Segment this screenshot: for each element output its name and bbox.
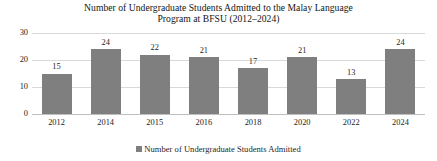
y-tick-label-0: 0	[2, 110, 28, 118]
bar-2012[interactable]	[42, 74, 72, 115]
bar-slot-2012: 15	[32, 33, 81, 114]
y-tick-label-20: 20	[2, 56, 28, 64]
bar-value-2018: 17	[229, 58, 278, 66]
x-axis: 2012 2014 2015 2016 2018 2020 2022 2024	[32, 118, 425, 130]
bar-slot-2020: 21	[278, 33, 327, 114]
bar-2014[interactable]	[91, 49, 121, 114]
bar-slot-2018: 17	[229, 33, 278, 114]
bar-value-2020: 21	[278, 47, 327, 55]
chart-legend: Number of Undergraduate Students Admitte…	[0, 142, 437, 156]
bar-slot-2024: 24	[376, 33, 425, 114]
y-tick-label-10: 10	[2, 83, 28, 91]
x-tick-label-2020: 2020	[278, 118, 327, 127]
chart-title: Number of Undergraduate Students Admitte…	[0, 2, 437, 24]
legend-entry-label[interactable]: Number of Undergraduate Students Admitte…	[144, 145, 300, 154]
bar-value-2022: 13	[327, 69, 376, 77]
bar-slot-2014: 24	[81, 33, 130, 114]
x-tick-label-2022: 2022	[327, 118, 376, 127]
bar-slot-2022: 13	[327, 33, 376, 114]
bar-slot-2015: 22	[130, 33, 179, 114]
chart-title-line-1: Number of Undergraduate Students Admitte…	[0, 2, 437, 13]
bar-value-2015: 22	[130, 44, 179, 52]
x-axis-line	[32, 114, 425, 115]
y-tick-label-30: 30	[2, 29, 28, 37]
bar-2022[interactable]	[336, 79, 366, 114]
x-tick-label-2024: 2024	[376, 118, 425, 127]
bar-2024[interactable]	[385, 49, 415, 114]
bar-value-2024: 24	[376, 39, 425, 47]
x-tick-label-2015: 2015	[130, 118, 179, 127]
bar-value-2016: 21	[179, 47, 228, 55]
x-tick-label-2014: 2014	[81, 118, 130, 127]
bar-value-2012: 15	[32, 63, 81, 71]
x-tick-label-2012: 2012	[32, 118, 81, 127]
chart-title-line-2: Program at BFSU (2012–2024)	[0, 13, 437, 24]
legend-swatch-icon	[136, 146, 142, 152]
bar-2020[interactable]	[287, 57, 317, 114]
bar-2016[interactable]	[189, 57, 219, 114]
bar-2018[interactable]	[238, 68, 268, 114]
x-tick-label-2018: 2018	[229, 118, 278, 127]
bar-chart: Number of Undergraduate Students Admitte…	[0, 0, 437, 161]
y-axis: 30 20 10 0	[0, 33, 28, 115]
x-tick-label-2016: 2016	[179, 118, 228, 127]
bar-value-2014: 24	[81, 39, 130, 47]
bar-slot-2016: 21	[179, 33, 228, 114]
plot-area: 15 24 22 21 17 21 13 24	[32, 33, 425, 114]
bar-2015[interactable]	[140, 55, 170, 114]
